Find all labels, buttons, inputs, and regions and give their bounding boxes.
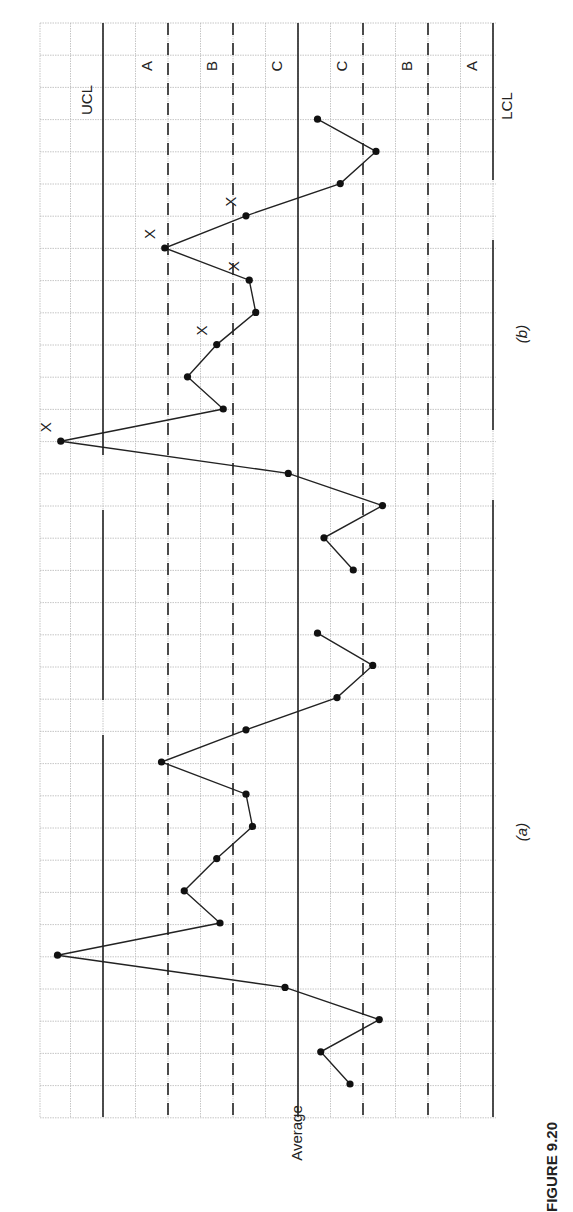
figure-caption: FIGURE 9.20 [543,1122,560,1212]
rule-violation-x-mark: X [222,197,239,207]
data-point [249,823,256,830]
rule-violation-x-mark: X [141,229,158,239]
data-point [57,438,64,445]
zone-label-c: C [268,60,285,71]
average-label: Average [288,1105,305,1161]
data-point [314,630,321,637]
data-point [333,694,340,701]
data-point [158,758,165,765]
data-point [369,662,376,669]
data-point [317,1048,324,1055]
data-point [285,470,292,477]
data-point [252,309,259,316]
data-point [184,373,191,380]
zone-label-b: B [203,61,220,71]
data-point [281,984,288,991]
data-point [346,1080,353,1087]
data-point [314,116,321,123]
data-point [161,244,168,251]
data-point [379,502,386,509]
data-point [54,952,61,959]
control-chart-figure: XXXXX ABCCBAUCLLCLAverage(b)(a)FIGURE 9.… [0,0,573,1212]
rule-violation-x-mark: X [193,326,210,336]
data-point [337,180,344,187]
data-point [320,534,327,541]
data-point [242,212,249,219]
rule-violation-x-mark: X [37,422,54,432]
rule-violation-x-mark: X [225,261,242,271]
data-point [213,855,220,862]
data-point [216,919,223,926]
data-point [181,887,188,894]
data-point [350,566,357,573]
data-series: XXXXX [37,116,386,1088]
panel-label-a: (a) [513,823,530,841]
data-point [220,405,227,412]
data-point [213,341,220,348]
panel-label-b: (b) [513,325,530,343]
data-point [376,1016,383,1023]
series-line-b [61,119,383,570]
lcl-label: LCL [498,92,515,120]
data-point [246,277,253,284]
zone-label-b: B [398,61,415,71]
data-point [242,726,249,733]
data-point [242,791,249,798]
data-point [372,148,379,155]
zone-label-a: A [463,61,480,71]
ucl-label: UCL [78,85,95,115]
zone-label-a: A [138,61,155,71]
zone-label-c: C [333,60,350,71]
